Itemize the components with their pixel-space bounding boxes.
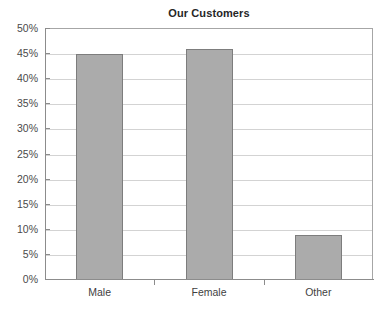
- y-axis-tick-mark: [45, 103, 50, 104]
- chart-title: Our Customers: [0, 7, 390, 19]
- y-axis-tick-mark: [45, 154, 50, 155]
- y-axis-tick-mark: [45, 229, 50, 230]
- y-axis-tick-label: 30%: [0, 122, 38, 134]
- x-axis-tick-mark: [264, 280, 265, 285]
- y-axis-tick-mark: [45, 254, 50, 255]
- y-axis-tick-mark: [45, 179, 50, 180]
- y-axis-tick-label: 35%: [0, 97, 38, 109]
- plot-area: [45, 28, 373, 279]
- y-axis-tick-label: 40%: [0, 72, 38, 84]
- y-axis-labels: 0%5%10%15%20%25%30%35%40%45%50%: [0, 0, 38, 310]
- y-axis-tick-mark: [45, 128, 50, 129]
- y-axis-tick-mark: [45, 53, 50, 54]
- x-axis-line: [45, 279, 374, 280]
- x-axis-category-label: Male: [88, 286, 111, 298]
- x-axis-category-label: Female: [191, 286, 226, 298]
- y-axis-tick-label: 25%: [0, 148, 38, 160]
- y-axis-tick-mark: [45, 28, 50, 29]
- y-axis-tick-mark: [45, 279, 50, 280]
- bar-male: [76, 54, 123, 280]
- y-axis-tick-mark: [45, 78, 50, 79]
- y-axis-tick-label: 20%: [0, 173, 38, 185]
- y-axis-tick-label: 45%: [0, 47, 38, 59]
- y-axis-tick-label: 5%: [0, 248, 38, 260]
- y-axis-tick-label: 10%: [0, 223, 38, 235]
- x-axis-category-label: Other: [305, 286, 331, 298]
- chart-container: Our Customers 0%5%10%15%20%25%30%35%40%4…: [0, 0, 390, 310]
- bar-other: [295, 235, 342, 280]
- bar-female: [186, 49, 233, 280]
- y-axis-tick-mark: [45, 204, 50, 205]
- bars-layer: [45, 29, 373, 280]
- y-axis-tick-label: 0%: [0, 273, 38, 285]
- y-axis-tick-label: 15%: [0, 198, 38, 210]
- x-axis-tick-mark: [154, 280, 155, 285]
- y-axis-tick-label: 50%: [0, 22, 38, 34]
